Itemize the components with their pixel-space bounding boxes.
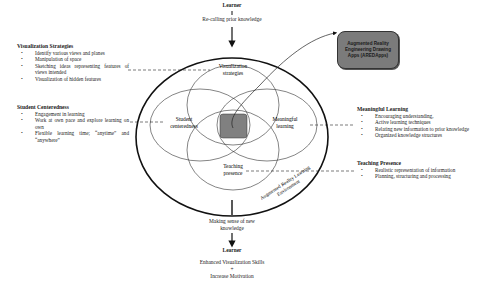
panel-teaching-presence: Teaching Presence Realistic representati… <box>357 160 475 180</box>
panel-title: Student Centeredness <box>17 104 129 111</box>
panel-title: Teaching Presence <box>357 160 475 167</box>
label-meaningful: Meaningful <box>272 116 298 122</box>
label-student: Student <box>176 116 193 122</box>
recall-prior-knowledge: Re-calling prior knowledge <box>172 16 292 23</box>
list-item: Planning, structuring and processing <box>357 173 475 179</box>
ar-apps-line3: Apps (AREDApps) <box>345 53 391 59</box>
center-intersection <box>220 114 247 138</box>
sense-making-line2: knowledge <box>182 225 282 232</box>
label-visualization-2: strategies <box>223 70 243 76</box>
top-learner: Learner <box>182 2 282 9</box>
panel-student-centeredness: Student Centeredness Engagement in learn… <box>17 104 129 143</box>
panel-visualization-strategies: Visualization Strategies Identify variou… <box>17 43 129 82</box>
label-teaching: Teaching <box>223 163 243 169</box>
list-item: Organized knowledge structures <box>357 132 472 138</box>
list-item: Visualization of hidden features <box>17 76 129 82</box>
list-item: Work at own pace and explore learning on… <box>17 117 129 130</box>
outcome-plus: + <box>182 266 282 273</box>
bottom-learner: Learner <box>182 247 282 254</box>
outcome-visualization: Enhanced Visualization Skills <box>162 259 302 266</box>
list-item: Sketching ideas representing features of… <box>17 63 129 76</box>
list-item: Flexible learning time; “anytime” and “a… <box>17 130 129 143</box>
label-student-2: centeredness <box>170 123 198 129</box>
label-visualization: Visualization <box>219 63 248 69</box>
label-meaningful-2: learning <box>276 123 294 129</box>
ar-apps-box: Augmented Reality Engineering Drawing Ap… <box>337 31 399 69</box>
panel-meaningful-learning: Meaningful Learning Encouraging understa… <box>357 106 472 139</box>
sense-making-line1: Making sense of new <box>182 218 282 225</box>
outcome-motivation: Increase Motivation <box>162 273 302 280</box>
label-teaching-2: presence <box>224 170 243 176</box>
label-environment: Augmented Reality Learning <box>259 164 311 200</box>
panel-title: Visualization Strategies <box>17 43 129 50</box>
panel-title: Meaningful Learning <box>357 106 472 113</box>
